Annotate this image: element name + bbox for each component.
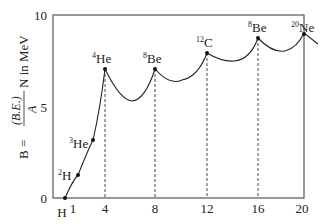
point-4he [103, 67, 107, 71]
point-12c [205, 51, 209, 55]
x-tick-20: 20 [296, 201, 309, 216]
x-tick-8: 8 [152, 201, 159, 216]
point-2h [76, 173, 80, 177]
label-3he: 3He [69, 136, 88, 151]
point-16 [256, 36, 260, 40]
y-tick-5: 5 [41, 100, 48, 115]
x-tick-16: 16 [252, 201, 266, 216]
y-tick-10: 10 [34, 8, 47, 23]
point-8be [153, 67, 157, 71]
label-2h: 2H [58, 168, 71, 183]
label-4he: 4He [92, 51, 111, 66]
origin-label-h: H [57, 205, 66, 220]
label-16: 8Be [248, 20, 267, 35]
x-tick-12: 12 [201, 201, 214, 216]
plot-frame [53, 15, 304, 198]
y-axis-prefix: B = [16, 140, 31, 159]
y-axis-numerator: (B.E.) [9, 96, 23, 125]
point-3he [91, 138, 95, 142]
y-axis-label: B = (B.E.) A N in MeV [9, 35, 39, 159]
x-tick-4: 4 [102, 201, 109, 216]
label-8be: 8Be [143, 51, 162, 66]
y-tick-0: 0 [41, 191, 48, 206]
drop-lines [105, 38, 258, 198]
y-axis-suffix: N in MeV [16, 35, 31, 88]
binding-energy-chart: 10 5 0 H 1 4 8 12 16 20 B = (B.E.) A N i… [0, 0, 332, 224]
label-12c: 12C [196, 35, 213, 50]
label-20ne: 20Ne [291, 20, 314, 35]
x-tick-1: 1 [70, 201, 77, 216]
point-h [63, 196, 67, 200]
y-axis-denominator: A [25, 105, 39, 114]
